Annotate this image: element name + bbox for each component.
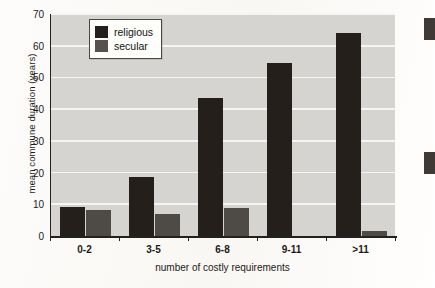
y-tick-label-50: 50 — [33, 72, 44, 83]
x-tick-label-0-2: 0-2 — [77, 244, 91, 255]
legend-item-religious: religious — [95, 26, 153, 38]
y-tick-label-0: 0 — [38, 231, 44, 242]
x-tick-mark->11 — [326, 236, 327, 241]
legend-swatch-religious — [95, 26, 108, 38]
chart-legend: religious secular — [89, 19, 162, 59]
y-axis-tick-labels: 010203040506070 — [18, 14, 44, 236]
y-tick-label-20: 20 — [33, 167, 44, 178]
bar-secular-6-8 — [224, 208, 249, 236]
bar-religious-3-5 — [129, 177, 154, 236]
legend-item-secular: secular — [95, 40, 153, 52]
gridline-70 — [51, 13, 395, 15]
x-tick-label-9-11: 9-11 — [282, 244, 301, 255]
page-bleed-artifact-top — [424, 18, 435, 40]
x-tick-mark-0-2 — [50, 236, 51, 241]
x-tick-label-3-5: 3-5 — [146, 244, 160, 255]
x-tick-label->11: >11 — [352, 244, 368, 255]
y-tick-label-40: 40 — [33, 104, 44, 115]
bar-secular-3-5 — [155, 214, 180, 236]
y-tick-label-10: 10 — [33, 199, 44, 210]
x-tick-mark-6-8 — [188, 236, 189, 241]
bar-religious-6-8 — [198, 98, 223, 236]
x-tick-mark-end — [395, 236, 396, 241]
x-axis-line — [50, 236, 397, 238]
bar-secular-0-2 — [86, 210, 111, 236]
x-axis-title: number of costly requirements — [50, 262, 395, 273]
y-tick-label-70: 70 — [33, 9, 44, 20]
bar-religious-0-2 — [60, 207, 85, 236]
x-tick-mark-9-11 — [257, 236, 258, 241]
bar-religious-9-11 — [267, 63, 292, 236]
x-tick-label-6-8: 6-8 — [215, 244, 229, 255]
legend-swatch-secular — [95, 40, 108, 52]
y-tick-label-60: 60 — [33, 40, 44, 51]
legend-label-religious: religious — [114, 26, 153, 38]
page-bleed-artifact-bottom — [424, 152, 435, 174]
legend-label-secular: secular — [114, 40, 148, 52]
bar-religious->11 — [336, 33, 361, 236]
y-tick-label-30: 30 — [33, 135, 44, 146]
x-tick-mark-3-5 — [119, 236, 120, 241]
